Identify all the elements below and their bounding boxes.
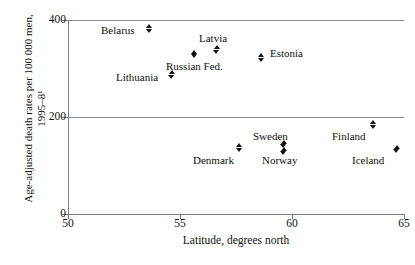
- x-tick-label-60: 60: [272, 217, 312, 229]
- y-axis-line: [68, 20, 69, 215]
- x-axis-title: Latitude, degrees north: [68, 234, 404, 246]
- scatter-chart: 400 200 0 50 55 60 65 Latitude, degrees …: [0, 0, 415, 265]
- data-point-latvia: [214, 45, 220, 49]
- data-point-iceland: [394, 145, 400, 149]
- y-axis-title-line1: Age-adjusted death rates per 100 000 men…: [22, 11, 35, 207]
- x-tick-label-65: 65: [384, 217, 415, 229]
- data-point-norway: [281, 147, 287, 151]
- data-point-estonia: [258, 53, 264, 57]
- data-label-finland: Finland: [332, 130, 366, 142]
- data-point-denmark: [236, 143, 242, 147]
- data-label-belarus: Belarus: [101, 24, 135, 36]
- x-tick-label-50: 50: [48, 217, 88, 229]
- gridline-400: [68, 20, 404, 21]
- data-label-estonia: Estonia: [270, 47, 303, 59]
- data-label-russian-fed: Russian Fed.: [166, 60, 223, 72]
- data-point-belarus: [146, 24, 152, 28]
- data-label-iceland: Iceland: [352, 154, 384, 166]
- data-point-finland: [370, 120, 376, 124]
- y-axis-title: Age-adjusted death rates per 100 000 men…: [22, 11, 47, 207]
- y-axis-title-line2: 1995–8¹: [34, 11, 47, 207]
- data-label-lithuania: Lithuania: [116, 71, 158, 83]
- data-label-sweden: Sweden: [253, 130, 288, 142]
- x-tick-label-55: 55: [160, 217, 200, 229]
- data-label-latvia: Latvia: [199, 32, 227, 44]
- data-point-russian-fed: [191, 50, 197, 54]
- gridline-200: [68, 117, 404, 118]
- x-axis-line: [68, 214, 404, 215]
- data-label-denmark: Denmark: [193, 154, 234, 166]
- data-label-norway: Norway: [262, 154, 297, 166]
